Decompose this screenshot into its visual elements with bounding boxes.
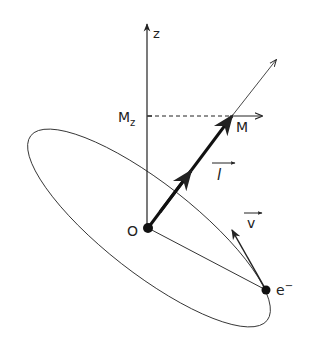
mz-label-sub: z bbox=[130, 117, 135, 128]
origin-dot bbox=[143, 223, 153, 233]
origin-label: O bbox=[127, 223, 138, 239]
electron-label-sup: − bbox=[285, 280, 293, 291]
electron-label-main: e bbox=[276, 282, 285, 298]
z-axis-label: z bbox=[153, 26, 160, 41]
orbital-moment-diagram: z Mz M l O v e− bbox=[0, 0, 316, 363]
moment-vector-mid-arrow bbox=[160, 171, 191, 212]
mz-label: Mz bbox=[118, 109, 135, 128]
electron-label: e− bbox=[276, 280, 293, 298]
moment-axis-extension bbox=[232, 60, 276, 116]
mz-label-main: M bbox=[118, 109, 130, 125]
electron-dot bbox=[262, 286, 271, 295]
velocity-label: v bbox=[247, 215, 255, 231]
angular-momentum-label: l bbox=[217, 166, 222, 184]
moment-label: M bbox=[236, 119, 248, 135]
